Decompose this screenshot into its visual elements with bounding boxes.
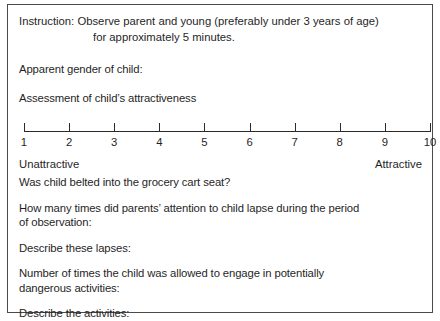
spacer-3 <box>19 190 422 201</box>
scale-tick-1 <box>24 123 25 132</box>
question-dangerous-line-2: dangerous activities: <box>19 281 422 296</box>
spacer-1 <box>19 45 422 62</box>
scale-tick-label-2[interactable]: 2 <box>66 136 72 149</box>
spacer-2 <box>19 77 422 91</box>
scale-tick-label-8[interactable]: 8 <box>337 136 343 149</box>
scale-tick-3 <box>114 123 115 132</box>
question-attractiveness: Assessment of child’s attractiveness <box>19 91 422 106</box>
spacer-4 <box>19 230 422 241</box>
question-describe-lapses: Describe these lapses: <box>19 241 422 256</box>
form-content: Instruction: Observe parent and young (p… <box>19 13 422 321</box>
scale-axis-line <box>24 131 430 132</box>
scale-tick-label-5[interactable]: 5 <box>201 136 207 149</box>
question-dangerous-activities: Number of times the child was allowed to… <box>19 266 422 295</box>
scale-tick-9 <box>385 123 386 132</box>
scale-tick-label-7[interactable]: 7 <box>292 136 298 149</box>
scale-tick-label-1[interactable]: 1 <box>21 136 27 149</box>
attractiveness-rating-scale[interactable]: 12345678910 Unattractive Attractive <box>19 117 422 175</box>
scale-tick-7 <box>295 123 296 132</box>
scale-tick-label-10[interactable]: 10 <box>424 136 437 149</box>
observation-form-card: Instruction: Observe parent and young (p… <box>7 4 433 313</box>
scale-tick-label-3[interactable]: 3 <box>111 136 117 149</box>
instruction-line-2: for approximately 5 minutes. <box>19 29 422 45</box>
instruction-block: Instruction: Observe parent and young (p… <box>19 13 422 45</box>
question-describe-activities: Describe the activities: <box>19 306 422 321</box>
scale-tick-2 <box>69 123 70 132</box>
scale-tick-8 <box>340 123 341 132</box>
spacer-6 <box>19 295 422 306</box>
scale-tick-6 <box>250 123 251 132</box>
question-apparent-gender: Apparent gender of child: <box>19 62 422 77</box>
scale-tick-5 <box>204 123 205 132</box>
scale-anchor-low: Unattractive <box>19 158 79 171</box>
question-lapses-count-line-1: How many times did parents’ attention to… <box>19 202 359 214</box>
instruction-line-1: Instruction: Observe parent and young (p… <box>19 15 379 27</box>
scale-tick-label-9[interactable]: 9 <box>382 136 388 149</box>
scale-tick-label-6[interactable]: 6 <box>246 136 252 149</box>
scale-anchor-high: Attractive <box>375 158 422 171</box>
scale-tick-label-4[interactable]: 4 <box>156 136 162 149</box>
scale-tick-10 <box>430 123 431 132</box>
spacer-5 <box>19 255 422 266</box>
question-lapses-count: How many times did parents’ attention to… <box>19 201 422 230</box>
question-belted: Was child belted into the grocery cart s… <box>19 175 422 190</box>
question-dangerous-line-1: Number of times the child was allowed to… <box>19 267 324 279</box>
scale-tick-4 <box>159 123 160 132</box>
question-lapses-count-line-2: of observation: <box>19 215 422 230</box>
